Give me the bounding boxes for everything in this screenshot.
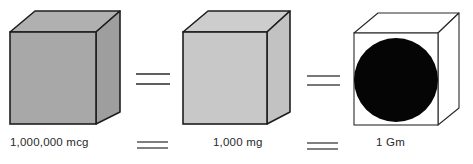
cube-mcg xyxy=(10,11,120,124)
cube-mg-side xyxy=(267,11,290,124)
cube-mcg-front xyxy=(10,32,96,124)
cube-mg xyxy=(183,11,290,124)
equals-icon xyxy=(136,74,170,84)
cube-mg-front xyxy=(183,32,267,124)
equals-icon xyxy=(137,142,168,148)
label-gm: 1 Gm xyxy=(376,136,405,148)
label-mcg: 1,000,000 mcg xyxy=(10,136,89,148)
cube-gm xyxy=(354,13,459,125)
equals-icon xyxy=(307,76,340,85)
label-mg: 1,000 mg xyxy=(213,136,263,148)
cube-mcg-side xyxy=(96,11,120,124)
black-circle-icon xyxy=(354,38,438,122)
cube-gm-side xyxy=(438,13,459,125)
equals-icon xyxy=(307,143,338,149)
